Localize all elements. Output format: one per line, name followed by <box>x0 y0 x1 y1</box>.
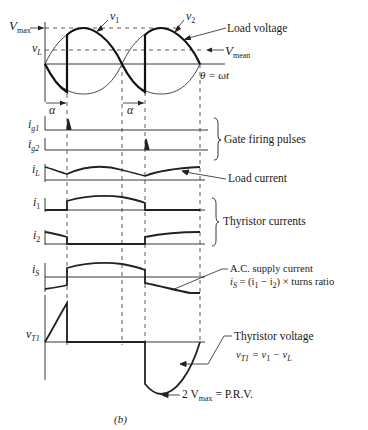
thyristor-voltage-plot <box>45 295 232 398</box>
is-equation: iS = (i1 − i2) × turns ratio <box>230 277 334 290</box>
vmean-annotation: Vmean <box>225 44 250 60</box>
prv-annotation: 2 Vmax = P.R.V. <box>182 389 253 403</box>
vmax-label: Vmax <box>9 19 31 35</box>
figure-caption: (b) <box>114 414 127 425</box>
load-voltage-annotation: Load voltage <box>227 23 287 35</box>
vl-label: vL <box>32 42 42 57</box>
load-current-plot <box>45 164 226 182</box>
dashed-guides <box>45 28 205 345</box>
ig2-label: ig2 <box>28 138 39 153</box>
alpha-label-2: α <box>127 104 133 116</box>
theta-label: θ = ωt <box>200 70 229 81</box>
i1-label: i1 <box>33 196 40 211</box>
thyristor1-current-plot <box>45 196 205 212</box>
v1-label: v1 <box>110 10 119 25</box>
thyristor-voltage-annotation: Thyristor voltage <box>234 331 314 343</box>
supply-current-plot <box>45 263 228 293</box>
il-label: iL <box>32 163 40 178</box>
gate-pulses-annotation: Gate firing pulses <box>224 134 306 146</box>
vt1-label: vT1 <box>26 328 40 343</box>
alpha-label-1: α <box>49 104 55 116</box>
supply-voltage-plot <box>30 20 226 106</box>
thyristor-currents-annotation: Thyristor currents <box>223 216 306 228</box>
gate-pulses-plot <box>45 116 221 160</box>
ig1-label: ig1 <box>28 118 39 133</box>
thyristor2-current-plot <box>45 198 219 246</box>
ac-supply-annotation: A.C. supply current <box>230 264 313 275</box>
v2-label: v2 <box>186 10 195 25</box>
vt1-equation: vT1 = v1 − vL <box>236 350 292 363</box>
load-current-annotation: Load current <box>228 173 287 185</box>
is-label: iS <box>32 263 39 278</box>
i2-label: i2 <box>33 229 40 244</box>
waveform-diagram <box>0 0 368 430</box>
